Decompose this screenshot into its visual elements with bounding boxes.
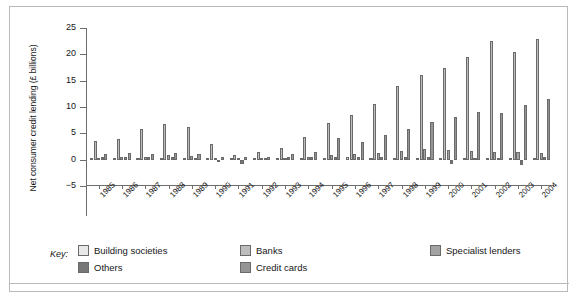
bar-group	[483, 28, 506, 186]
bar-group	[506, 28, 529, 186]
plot-area	[87, 28, 553, 186]
bar	[197, 154, 200, 159]
bar	[407, 129, 410, 160]
bar-group	[297, 28, 320, 186]
y-tick	[80, 107, 86, 108]
y-tick	[80, 160, 86, 161]
legend-item[interactable]: Building societies	[78, 245, 167, 256]
bar-group	[134, 28, 157, 186]
bar	[151, 154, 154, 160]
bar-group	[110, 28, 133, 186]
bar	[217, 160, 220, 162]
bar	[267, 157, 270, 160]
bar-group	[413, 28, 436, 186]
bar-group	[180, 28, 203, 186]
y-tick	[80, 81, 86, 82]
y-tick-label: 5	[52, 128, 76, 137]
bar	[221, 157, 224, 160]
bar	[396, 86, 399, 160]
figure-panel: Net consumer credit lending (£ billions)…	[9, 6, 568, 292]
y-tick	[80, 28, 86, 29]
bar	[174, 153, 177, 159]
bar-group	[437, 28, 460, 186]
bar	[163, 124, 166, 159]
legend-swatch-icon	[78, 262, 89, 273]
y-tick	[80, 54, 86, 55]
bar-group	[227, 28, 250, 186]
bar-group	[343, 28, 366, 186]
bar-group	[530, 28, 553, 186]
legend-label: Credit cards	[256, 262, 307, 273]
y-axis-label-wrap: Net consumer credit lending (£ billions)	[24, 29, 40, 214]
bar	[500, 113, 503, 160]
bar-group	[204, 28, 227, 186]
bar	[520, 160, 523, 166]
legend-item[interactable]: Others	[78, 262, 123, 273]
bar	[430, 122, 433, 160]
legend-item[interactable]: Banks	[240, 245, 282, 256]
bar	[536, 39, 539, 160]
bar	[327, 123, 330, 160]
bar	[187, 127, 190, 160]
bar-group	[157, 28, 180, 186]
legend-divider	[10, 283, 569, 284]
legend-item[interactable]: Credit cards	[240, 262, 307, 273]
bar	[128, 153, 131, 159]
chart-legend: Key: Building societiesBanksSpecialist l…	[50, 245, 550, 285]
bar	[447, 150, 450, 160]
bar	[104, 154, 107, 160]
bar	[466, 57, 469, 160]
y-tick-label: 15	[52, 76, 76, 85]
bar-group	[250, 28, 273, 186]
bar-group	[367, 28, 390, 186]
bar	[240, 160, 243, 164]
bar-group	[460, 28, 483, 186]
legend-swatch-icon	[430, 245, 441, 256]
bar	[516, 152, 519, 159]
legend-swatch-icon	[240, 262, 251, 273]
y-tick-label: 20	[52, 49, 76, 58]
legend-label: Others	[94, 262, 123, 273]
bar	[420, 75, 423, 159]
bar	[140, 129, 143, 160]
bar	[291, 154, 294, 160]
bar	[454, 117, 457, 160]
legend-item[interactable]: Specialist lenders	[430, 245, 520, 256]
bar-group	[273, 28, 296, 186]
y-tick-label: 25	[52, 23, 76, 32]
bar	[373, 104, 376, 159]
bar	[524, 105, 527, 159]
y-tick	[80, 133, 86, 134]
legend-label: Banks	[256, 245, 282, 256]
legend-title: Key:	[50, 249, 68, 259]
y-tick-label: 0	[52, 155, 76, 164]
bar	[450, 160, 453, 165]
bar	[337, 138, 340, 160]
bar-group	[390, 28, 413, 186]
legend-swatch-icon	[240, 245, 251, 256]
y-tick-label: 10	[52, 102, 76, 111]
bar	[384, 135, 387, 159]
bar	[547, 99, 550, 160]
bar	[490, 41, 493, 160]
legend-swatch-icon	[78, 245, 89, 256]
legend-label: Specialist lenders	[446, 245, 520, 256]
bar	[443, 68, 446, 160]
bar	[513, 52, 516, 160]
y-tick-label: −5	[52, 181, 76, 190]
bar-group	[320, 28, 343, 186]
bar	[244, 157, 247, 160]
legend-label: Building societies	[94, 245, 167, 256]
bar	[314, 152, 317, 160]
y-tick	[80, 186, 86, 187]
bar-group	[87, 28, 110, 186]
bar	[477, 112, 480, 159]
bar	[361, 142, 364, 159]
y-axis-label: Net consumer credit lending (£ billions)	[28, 25, 38, 211]
